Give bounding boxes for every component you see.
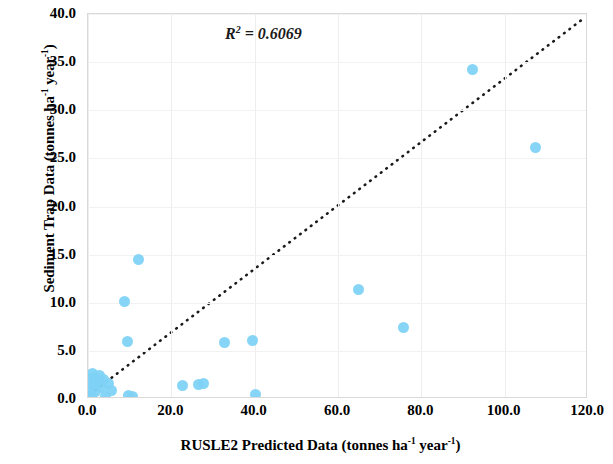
x-axis-tick-label: 80.0 [385,403,455,418]
x-axis-tick-label: 100.0 [469,403,539,418]
data-point [467,64,478,75]
y-axis-tick-label: 40.0 [16,6,76,21]
data-point [177,380,188,391]
data-point [530,142,541,153]
trendline [88,14,586,397]
gridline-horizontal [88,207,586,208]
y-axis-title-text: Sediment Trap Data (tonnes ha [41,96,57,293]
x-axis-title-sup-1: -1 [408,436,416,446]
data-point [122,336,133,347]
gridline-vertical [421,14,422,397]
y-axis-tick-label: 35.0 [16,54,76,69]
data-point [106,385,117,396]
data-point [250,389,261,398]
x-axis-title: RUSLE2 Predicted Data (tonnes ha-1 year-… [0,437,613,454]
gridline-horizontal [88,303,586,304]
gridline-horizontal [88,14,586,15]
data-point [398,322,409,333]
x-axis-title-mid: year [416,437,448,453]
r-squared-prefix: R [225,25,236,42]
y-axis-tick-label: 15.0 [16,247,76,262]
data-point [219,337,230,348]
gridline-vertical [171,14,172,397]
data-point [247,335,258,346]
y-axis-tick-label: 10.0 [16,295,76,310]
data-point [353,284,364,295]
gridline-horizontal [88,158,586,159]
gridline-horizontal [88,255,586,256]
data-point [127,391,138,398]
x-axis-tick-label: 120.0 [552,403,613,418]
plot-area [87,13,587,398]
y-axis-title-end: ) [41,44,57,49]
y-axis-tick-label: 20.0 [16,199,76,214]
gridline-horizontal [88,351,586,352]
gridline-vertical [88,14,89,397]
x-axis-tick-label: 0.0 [52,403,122,418]
y-axis-tick-label: 25.0 [16,150,76,165]
y-axis-tick-label: 30.0 [16,102,76,117]
gridline-horizontal [88,110,586,111]
gridline-vertical [505,14,506,397]
r-squared-value: = 0.6069 [241,25,302,42]
x-axis-tick-label: 40.0 [219,403,289,418]
x-axis-title-end: ) [455,437,460,453]
x-axis-title-text: RUSLE2 Predicted Data (tonnes ha [181,437,408,453]
gridline-vertical [338,14,339,397]
r-squared-annotation: R2 = 0.6069 [225,25,302,43]
gridline-horizontal [88,62,586,63]
scatter-chart: Sediment Trap Data (tonnes ha-1 year-1) … [0,0,613,464]
x-axis-tick-label: 60.0 [302,403,372,418]
data-point [119,296,130,307]
x-axis-tick-label: 20.0 [135,403,205,418]
data-point [198,378,209,389]
y-axis-title-sup-1: -1 [40,88,50,96]
y-axis-tick-label: 5.0 [16,343,76,358]
data-point [133,254,144,265]
